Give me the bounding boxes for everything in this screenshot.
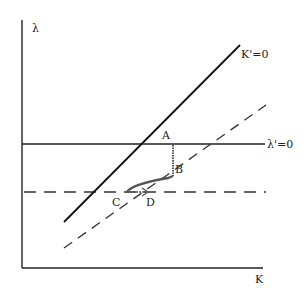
point-d-label: D [146,196,155,209]
x-axis-label: K [255,273,264,286]
path-b-to-c [127,176,173,192]
point-c-label: C [112,196,120,209]
lambda-dot-zero-label: λ'=0 [267,138,293,151]
k-dot-zero-label: K'=0 [241,48,268,61]
point-a-label: A [161,129,171,142]
point-b-label: B [175,163,183,176]
k-dot-zero-shifted-line [64,105,266,248]
phase-diagram: λ K K'=0 λ'=0 A B C D [0,0,306,296]
y-axis-label: λ [32,22,39,35]
